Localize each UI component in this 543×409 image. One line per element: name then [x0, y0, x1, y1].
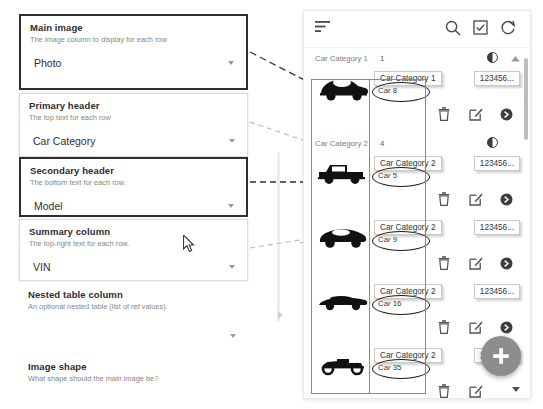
primary-header-select-value: Car Category	[29, 130, 238, 152]
edit-icon[interactable]	[469, 107, 483, 125]
group-header-count: 1	[380, 54, 384, 63]
chevron-down-icon	[229, 139, 235, 143]
row-actions	[438, 320, 522, 336]
trash-icon[interactable]	[438, 320, 450, 338]
chevron-down-icon	[228, 204, 234, 208]
annotation-ellipse	[372, 295, 430, 315]
search-icon[interactable]	[445, 20, 461, 40]
trash-icon[interactable]	[438, 256, 450, 274]
row-summary-chip: 123456...	[474, 71, 520, 86]
config-field-image-shape[interactable]: Image shape What shape should the main i…	[19, 355, 248, 405]
annotation-ellipse	[372, 359, 430, 379]
row-actions	[438, 107, 522, 123]
chevron-down-icon[interactable]	[512, 387, 520, 392]
preview-scrollbar[interactable]	[524, 58, 528, 140]
sort-icon[interactable]	[315, 20, 331, 38]
config-field-primary-header[interactable]: Primary header The top text for each row…	[19, 93, 248, 157]
chevron-down-icon	[230, 334, 236, 338]
info-circle-icon[interactable]	[487, 137, 498, 150]
row-actions	[438, 192, 522, 208]
main-image-select[interactable]: Photo	[30, 52, 237, 74]
config-panel: Main image The image column to display f…	[0, 0, 270, 409]
row-summary-chip: 123456...	[474, 284, 520, 299]
edit-icon[interactable]	[469, 192, 483, 210]
group-header[interactable]: Car Category 2 4	[304, 133, 530, 154]
plus-icon	[491, 346, 511, 366]
main-image-select-value: Photo	[30, 52, 237, 74]
arrow-right-circle-icon[interactable]	[500, 107, 513, 125]
row-summary-chip: 123456...	[474, 220, 520, 235]
config-field-description: An optional nested table (list of ref va…	[19, 300, 187, 312]
summary-column-select[interactable]: VIN	[29, 256, 238, 278]
group-header-name: Car Category 1	[315, 54, 368, 63]
car-beetle-icon	[317, 73, 371, 105]
table-row[interactable]: Car Category 2 123456... Car 9	[304, 218, 530, 282]
config-field-summary-column[interactable]: Summary column The top-right text for ea…	[19, 219, 248, 281]
car-pickup-icon	[317, 158, 371, 190]
row-actions	[438, 256, 522, 272]
config-field-description: What shape should the main image be?	[19, 372, 187, 384]
mouse-cursor	[183, 235, 196, 253]
group-header-count: 4	[380, 139, 384, 148]
config-field-description: The top-right text for each row.	[20, 237, 188, 249]
table-row[interactable]: Car Category 2 123456... Car 5	[304, 154, 530, 218]
config-field-description: The image column to display for each row	[21, 33, 189, 45]
config-field-title: Nested table column	[19, 283, 248, 300]
chevron-up-icon[interactable]	[511, 55, 520, 64]
config-field-nested-table-column[interactable]: Nested table column An optional nested t…	[19, 283, 248, 349]
row-summary-chip: 123456...	[474, 156, 520, 171]
chevron-right-icon[interactable]	[278, 311, 283, 319]
table-row[interactable]: Car Category 1 123456... Car 8	[304, 69, 530, 133]
mobile-preview-panel: Car Category 1 1	[303, 10, 531, 399]
car-roadster-icon	[317, 350, 371, 382]
summary-column-select-value: VIN	[29, 256, 238, 278]
config-field-secondary-header[interactable]: Secondary header The bottom text for eac…	[19, 157, 248, 217]
refresh-icon[interactable]	[500, 20, 516, 40]
config-field-title: Secondary header	[21, 159, 246, 176]
edit-icon[interactable]	[469, 384, 483, 399]
arrow-right-circle-icon[interactable]	[500, 256, 513, 274]
config-field-title: Image shape	[19, 355, 248, 372]
config-field-title: Summary column	[20, 220, 247, 237]
add-record-fab[interactable]	[481, 336, 521, 376]
car-sports-icon	[317, 222, 371, 254]
trash-icon[interactable]	[438, 107, 450, 125]
annotation-ellipse	[372, 82, 430, 102]
config-field-description: The bottom text for each row.	[21, 176, 189, 188]
config-field-description: The top text for each row	[20, 111, 188, 123]
info-circle-icon[interactable]	[487, 52, 498, 65]
screenshot-root: Main image The image column to display f…	[0, 0, 543, 409]
annotation-ellipse	[372, 167, 430, 187]
chevron-down-icon	[229, 265, 235, 269]
edit-icon[interactable]	[469, 320, 483, 338]
nested-table-column-select[interactable]	[28, 325, 239, 347]
trash-icon[interactable]	[438, 384, 450, 399]
arrow-right-circle-icon[interactable]	[500, 192, 513, 210]
preview-toolbar	[304, 11, 530, 48]
group-header[interactable]: Car Category 1 1	[304, 48, 530, 69]
secondary-header-select[interactable]: Model	[30, 195, 237, 217]
config-field-title: Primary header	[20, 94, 247, 111]
trash-icon[interactable]	[438, 192, 450, 210]
checkbox-select-icon[interactable]	[473, 20, 488, 39]
config-panel-scrollbar[interactable]	[277, 152, 280, 322]
chevron-down-icon	[228, 61, 234, 65]
primary-header-select[interactable]: Car Category	[29, 130, 238, 152]
config-field-title: Main image	[21, 16, 246, 33]
secondary-header-select-value: Model	[30, 195, 237, 217]
row-actions	[438, 384, 522, 399]
annotation-ellipse	[372, 231, 430, 251]
config-field-main-image[interactable]: Main image The image column to display f…	[19, 14, 248, 90]
car-muscle-icon	[317, 286, 371, 318]
group-header-name: Car Category 2	[315, 139, 368, 148]
edit-icon[interactable]	[469, 256, 483, 274]
